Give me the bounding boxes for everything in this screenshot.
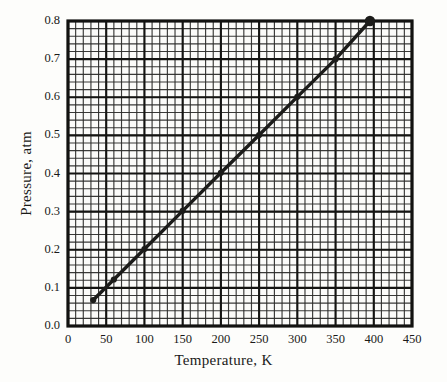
x-tick-label: 300 <box>277 332 317 347</box>
y-tick-label: 0.7 <box>26 51 60 66</box>
x-tick-label: 400 <box>354 332 394 347</box>
y-tick-label: 0.5 <box>26 127 60 142</box>
y-tick-label: 0.8 <box>26 13 60 28</box>
y-tick-label: 0.1 <box>26 280 60 295</box>
y-tick-label: 0.6 <box>26 89 60 104</box>
data-point <box>294 94 300 100</box>
y-tick-label: 0.3 <box>26 204 60 219</box>
x-tick-label: 200 <box>201 332 241 347</box>
data-point <box>90 297 96 303</box>
data-point <box>218 170 224 176</box>
data-point <box>256 132 262 138</box>
x-tick-label: 0 <box>48 332 88 347</box>
x-tick-label: 150 <box>163 332 203 347</box>
data-point-endpoint <box>365 16 375 26</box>
pressure-temperature-plot <box>0 0 447 382</box>
x-tick-label: 450 <box>392 332 432 347</box>
chart-figure: Temperature, K Pressure, atm 0.00.10.20.… <box>0 0 447 382</box>
y-tick-label: 0.0 <box>26 318 60 333</box>
data-point <box>111 276 117 282</box>
x-tick-label: 50 <box>86 332 126 347</box>
data-point <box>332 56 338 62</box>
data-point <box>141 246 147 252</box>
x-tick-label: 100 <box>124 332 164 347</box>
x-tick-label: 350 <box>316 332 356 347</box>
y-tick-label: 0.2 <box>26 242 60 257</box>
y-tick-label: 0.4 <box>26 166 60 181</box>
x-axis-title: Temperature, K <box>0 352 447 369</box>
x-tick-label: 250 <box>239 332 279 347</box>
data-point <box>180 208 186 214</box>
